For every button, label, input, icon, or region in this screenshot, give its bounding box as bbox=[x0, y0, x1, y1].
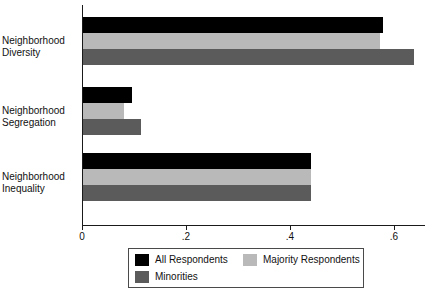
legend-swatch-all-respondents bbox=[135, 254, 149, 266]
bar-diversity-minorities bbox=[83, 49, 414, 65]
category-label-segregation-line2: Segregation bbox=[2, 117, 78, 129]
x-tick-2 bbox=[290, 225, 291, 230]
legend-label-majority-respondents: Majority Respondents bbox=[263, 254, 360, 266]
category-label-diversity-line2: Diversity bbox=[2, 47, 78, 59]
bar-chart: 0 .2 .4 .6 Neighborhood Diversity Neighb… bbox=[0, 0, 431, 293]
category-label-segregation-line1: Neighborhood bbox=[2, 105, 78, 117]
legend-label-minorities: Minorities bbox=[155, 271, 198, 283]
x-axis-line bbox=[82, 225, 425, 226]
category-label-segregation: Neighborhood Segregation bbox=[2, 105, 78, 129]
legend-item-majority-respondents: Majority Respondents bbox=[243, 254, 360, 266]
category-label-inequality-line1: Neighborhood bbox=[2, 171, 78, 183]
chart-legend: All Respondents Majority Respondents Min… bbox=[128, 248, 364, 288]
bar-diversity-all bbox=[83, 17, 383, 33]
bar-inequality-majority bbox=[83, 169, 311, 185]
bar-segregation-all bbox=[83, 87, 132, 103]
x-tick-0 bbox=[82, 225, 83, 230]
category-label-inequality: Neighborhood Inequality bbox=[2, 171, 78, 195]
legend-item-all-respondents: All Respondents bbox=[135, 254, 228, 266]
category-label-diversity: Neighborhood Diversity bbox=[2, 35, 78, 59]
bar-diversity-majority bbox=[83, 33, 380, 49]
category-label-inequality-line2: Inequality bbox=[2, 183, 78, 195]
bar-segregation-minorities bbox=[83, 119, 141, 135]
bar-inequality-minorities bbox=[83, 185, 311, 201]
bar-inequality-all bbox=[83, 153, 311, 169]
bar-segregation-majority bbox=[83, 103, 124, 119]
x-tick-label-1: .2 bbox=[171, 231, 201, 243]
x-tick-label-2: .4 bbox=[275, 231, 305, 243]
x-tick-1 bbox=[186, 225, 187, 230]
x-tick-3 bbox=[394, 225, 395, 230]
x-tick-label-3: .6 bbox=[379, 231, 409, 243]
legend-item-minorities: Minorities bbox=[135, 271, 198, 283]
legend-label-all-respondents: All Respondents bbox=[155, 254, 228, 266]
legend-swatch-majority-respondents bbox=[243, 254, 257, 266]
category-label-diversity-line1: Neighborhood bbox=[2, 35, 78, 47]
x-tick-label-0: 0 bbox=[67, 231, 97, 243]
legend-swatch-minorities bbox=[135, 271, 149, 283]
